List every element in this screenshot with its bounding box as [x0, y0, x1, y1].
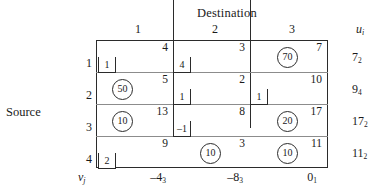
cost-r3c3: 17 [311, 105, 323, 118]
cell-r3c1: 13 10 [96, 104, 173, 136]
u-value-2: 94 [352, 82, 380, 97]
cell-r1c3: 7 70 [250, 40, 327, 72]
allocation-r3c3: 20 [277, 111, 298, 132]
eval-r4c1: 2 [98, 153, 116, 169]
cell-r1c2: 3 4 [173, 40, 250, 72]
eval-r1c1: 1 [98, 57, 116, 73]
row-header-2: 2 [80, 88, 92, 103]
eval-r3c2: –1 [173, 121, 191, 137]
u-value-2-subscript: 4 [358, 88, 362, 97]
cost-r2c3: 10 [311, 73, 323, 86]
cost-r1c2: 3 [239, 41, 245, 54]
ui-header-subscript: i [362, 28, 364, 37]
eval-r2c3: 1 [250, 89, 268, 105]
cell-r1c1: 4 1 [96, 40, 173, 72]
u-value-3-subscript: 2 [364, 120, 368, 129]
allocation-r4c3: 10 [277, 143, 298, 164]
cell-r3c2: 8 –1 [173, 104, 250, 136]
cell-r2c2: 2 1 [173, 72, 250, 104]
cost-r2c2: 2 [239, 73, 245, 86]
u-value-3-number: 17 [352, 114, 364, 128]
cost-r3c2: 8 [239, 105, 245, 118]
u-value-4-number: 11 [352, 146, 364, 160]
allocation-r2c1: 50 [112, 79, 133, 100]
row-header-4: 4 [80, 152, 92, 167]
cell-r4c3: 11 10 [250, 136, 327, 168]
allocation-r1c3: 70 [277, 47, 298, 68]
cost-r1c3: 7 [316, 41, 322, 54]
vj-header-subscript: j [83, 176, 85, 185]
column-header-1: 1 [118, 22, 158, 37]
v-value-1: –43 [133, 170, 183, 185]
cost-r3c1: 13 [157, 105, 169, 118]
destination-title: Destination [96, 6, 358, 21]
ui-column-header: ui [356, 22, 364, 37]
u-value-4: 112 [352, 146, 380, 161]
row-header-3: 3 [80, 120, 92, 135]
transportation-tableau: Destination 1 2 3 ui Source 1 2 3 4 vj 4… [0, 0, 384, 194]
cell-r4c1: 9 2 [96, 136, 173, 168]
cell-r4c2: 3 10 [173, 136, 250, 168]
vj-row-header: vj [78, 170, 86, 185]
column-header-3: 3 [272, 22, 312, 37]
v-value-3: 01 [287, 170, 337, 185]
cell-r2c3: 10 1 [250, 72, 327, 104]
cost-r1c1: 4 [162, 41, 168, 54]
v-value-1-subscript: 3 [162, 176, 166, 185]
cost-r2c1: 5 [162, 73, 168, 86]
cost-r4c3: 11 [311, 137, 322, 150]
v-value-2-subscript: 3 [239, 176, 243, 185]
eval-r1c2: 4 [173, 57, 191, 73]
allocation-r4c2: 10 [200, 143, 221, 164]
v-value-1-number: –4 [150, 170, 162, 184]
v-value-2: –83 [210, 170, 260, 185]
u-value-1-subscript: 2 [358, 56, 362, 65]
row-header-1: 1 [80, 56, 92, 71]
v-value-2-number: –8 [227, 170, 239, 184]
column-header-2: 2 [195, 22, 235, 37]
u-value-3: 172 [352, 114, 380, 129]
allocation-r3c1: 10 [112, 111, 133, 132]
cell-r3c3: 17 20 [250, 104, 327, 136]
cost-r4c2: 3 [239, 137, 245, 150]
u-value-4-subscript: 2 [364, 152, 368, 161]
cell-r2c1: 5 50 [96, 72, 173, 104]
eval-r2c2: 1 [173, 89, 191, 105]
cost-r4c1: 9 [162, 137, 168, 150]
u-value-1: 72 [352, 50, 380, 65]
v-value-3-subscript: 1 [313, 176, 317, 185]
source-title: Source [6, 105, 41, 120]
